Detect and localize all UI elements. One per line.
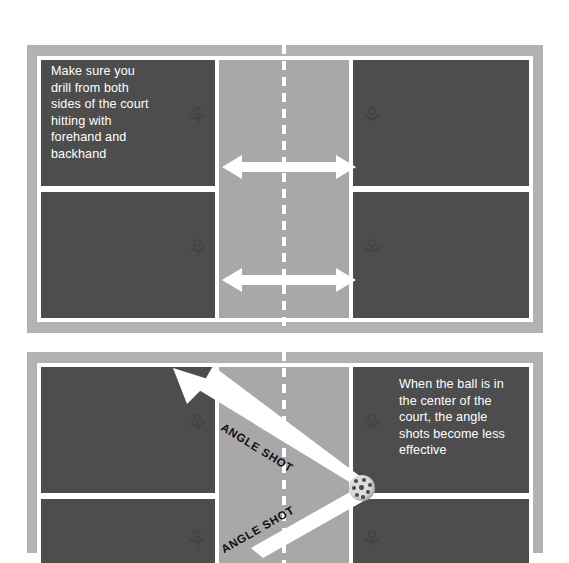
ball-hole bbox=[359, 485, 364, 490]
ball-hole bbox=[355, 493, 359, 497]
angle-shot-lower-arrow bbox=[27, 352, 543, 553]
court-watermark-icon: ⚘ bbox=[359, 235, 386, 264]
pickleball-icon bbox=[349, 475, 375, 501]
right-odd-service-box: ⚘ bbox=[353, 60, 529, 186]
ball-hole bbox=[354, 479, 358, 483]
court-watermark-icon: ⚘ bbox=[359, 103, 386, 132]
angle-shot-court-figure: ⚘ ⚘ ⚘ ⚘ When the ball is in the center o… bbox=[27, 352, 543, 553]
ball-hole bbox=[368, 483, 372, 487]
drill-court-figure: ⚘ ⚘ ⚘ ⚘ Make sure you drill from both si… bbox=[27, 45, 543, 333]
ball-hole bbox=[352, 486, 356, 490]
ball-hole bbox=[366, 490, 370, 494]
right-even-service-box: ⚘ bbox=[353, 192, 529, 318]
court-watermark-icon: ⚘ bbox=[184, 235, 211, 264]
drill-court-callout: Make sure you drill from both sides of t… bbox=[51, 63, 211, 163]
left-even-service-box: ⚘ bbox=[41, 192, 215, 318]
kitchen-arrow-bottom bbox=[222, 268, 356, 292]
kitchen-arrow-top bbox=[222, 155, 356, 179]
ball-hole bbox=[362, 478, 366, 482]
ball-hole bbox=[361, 495, 365, 499]
